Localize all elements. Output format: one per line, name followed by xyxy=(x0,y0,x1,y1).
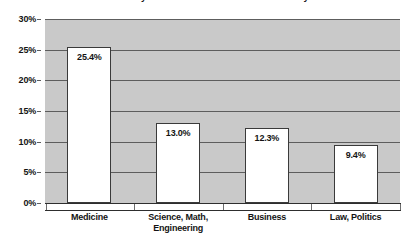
bar: 9.4% xyxy=(334,145,378,203)
x-axis-line-secondary xyxy=(45,210,401,211)
x-axis-category-line: Law, Politics xyxy=(311,212,400,223)
x-axis-category-line: Engineering xyxy=(134,223,223,234)
bar-value-label: 9.4% xyxy=(335,150,377,160)
x-axis-category-line: Medicine xyxy=(45,212,134,223)
chart-title: in which you would most like to work som… xyxy=(0,0,410,2)
x-axis-category-line: Science, Math, xyxy=(134,212,223,223)
x-axis-separator-tick xyxy=(400,204,401,210)
y-axis-tick-mark xyxy=(37,19,41,20)
x-axis-separator-tick xyxy=(46,204,47,210)
y-axis-tick-mark xyxy=(37,50,41,51)
x-axis-category-line: Business xyxy=(223,212,312,223)
bar-chart: in which you would most like to work som… xyxy=(0,0,410,239)
bar: 13.0% xyxy=(156,123,200,203)
bar-value-label: 13.0% xyxy=(157,128,199,138)
y-axis-tick-label: 5% xyxy=(23,167,36,177)
x-axis-category-label: Science, Math,Engineering xyxy=(134,212,223,234)
y-axis-tick-mark xyxy=(37,203,41,204)
bar-value-label: 12.3% xyxy=(246,133,288,143)
y-axis-tick-mark xyxy=(37,80,41,81)
y-axis-tick-label: 15% xyxy=(19,106,36,116)
y-axis-tick-label: 10% xyxy=(19,137,36,147)
x-axis-category-label: Medicine xyxy=(45,212,134,223)
y-axis-tick-label: 20% xyxy=(19,75,36,85)
x-axis-category-label: Business xyxy=(223,212,312,223)
x-axis-category-label: Law, Politics xyxy=(311,212,400,223)
y-axis-tick-mark xyxy=(37,111,41,112)
bar-value-label: 25.4% xyxy=(68,52,110,62)
y-axis-tick-mark xyxy=(37,172,41,173)
x-axis-separator-tick xyxy=(311,204,312,210)
bar: 12.3% xyxy=(245,128,289,203)
y-axis-tick-label: 30% xyxy=(19,14,36,24)
bar: 25.4% xyxy=(67,47,111,203)
gridline xyxy=(45,19,400,20)
y-axis-tick-label: 25% xyxy=(19,45,36,55)
y-axis-tick-mark xyxy=(37,142,41,143)
y-axis: 30%25%20%15%10%5%0% xyxy=(0,19,41,203)
x-axis-separator-tick xyxy=(134,204,135,210)
x-axis-separator-tick xyxy=(223,204,224,210)
y-axis-tick-label: 0% xyxy=(23,198,36,208)
